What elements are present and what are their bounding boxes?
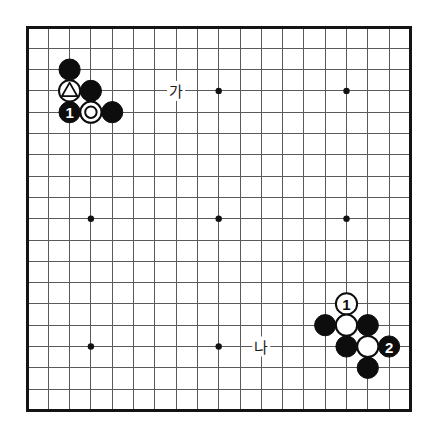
white-stone-icon [80,102,101,123]
stone-move-number: 1 [342,296,350,313]
star-point [343,216,349,222]
black-stone-icon [315,315,336,336]
stone-black [357,315,378,336]
stone-white [336,315,357,336]
stone-black [336,336,357,357]
stone-white [357,336,378,357]
star-point [88,343,94,349]
go-board-diagram: 가나 112 [0,0,447,435]
black-stone-icon [336,336,357,357]
star-point [216,216,222,222]
stone-move-number: 2 [385,339,393,356]
star-point [88,216,94,222]
star-point [343,88,349,94]
stone-black [59,59,80,80]
label-ga: 가 [169,83,183,100]
stone-black: 2 [379,336,400,357]
stone-black [357,357,378,378]
stone-black [80,80,101,101]
stone-black: 1 [59,102,80,123]
stone-black [315,315,336,336]
white-stone-icon [336,315,357,336]
star-point [216,88,222,94]
black-stone-icon [102,102,123,123]
stone-white [80,102,101,123]
star-point [216,343,222,349]
stone-white [59,80,80,101]
black-stone-icon [357,357,378,378]
stone-black [102,102,123,123]
goban-svg: 가나 112 [0,0,447,435]
black-stone-icon [59,59,80,80]
black-stone-icon [80,80,101,101]
stone-move-number: 1 [65,104,73,121]
black-stone-icon [357,315,378,336]
stone-white: 1 [336,293,357,314]
label-na: 나 [254,339,268,356]
white-stone-icon [357,336,378,357]
